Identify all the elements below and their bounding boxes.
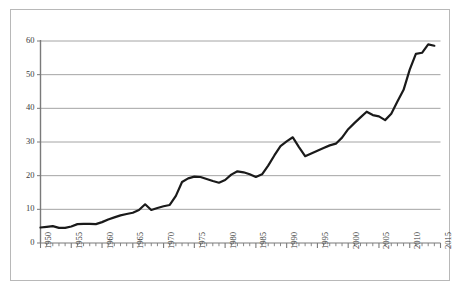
x-tick-label-1980: 1980 bbox=[229, 232, 238, 249]
y-tick-label-0: 0 bbox=[17, 238, 35, 247]
y-tick-label-50: 50 bbox=[17, 70, 35, 79]
x-tick-label-1990: 1990 bbox=[290, 232, 299, 249]
x-tick-label-2005: 2005 bbox=[382, 232, 391, 249]
axis-lines-group bbox=[41, 40, 441, 243]
x-tick-label-1995: 1995 bbox=[321, 232, 330, 249]
gridlines-group bbox=[41, 41, 441, 209]
x-tick-label-2000: 2000 bbox=[352, 232, 361, 249]
y-tick-label-40: 40 bbox=[17, 103, 35, 112]
x-tick-label-1985: 1985 bbox=[259, 232, 268, 249]
x-tick-label-2015: 2015 bbox=[444, 232, 453, 249]
x-tick-label-1975: 1975 bbox=[198, 232, 207, 249]
y-tick-label-10: 10 bbox=[17, 204, 35, 213]
x-tick-label-1955: 1955 bbox=[75, 232, 84, 249]
chart-plot-area bbox=[0, 0, 461, 293]
y-tick-label-20: 20 bbox=[17, 171, 35, 180]
chart-container: 0102030405060 19501955196019651970197519… bbox=[0, 0, 461, 293]
y-tick-label-30: 30 bbox=[17, 137, 35, 146]
x-tick-label-2010: 2010 bbox=[413, 232, 422, 249]
x-tick-label-1970: 1970 bbox=[167, 232, 176, 249]
data-line-series-1 bbox=[41, 44, 435, 227]
y-tick-label-60: 60 bbox=[17, 36, 35, 45]
x-tick-label-1950: 1950 bbox=[44, 232, 53, 249]
x-tick-label-1960: 1960 bbox=[106, 232, 115, 249]
x-tick-label-1965: 1965 bbox=[136, 232, 145, 249]
